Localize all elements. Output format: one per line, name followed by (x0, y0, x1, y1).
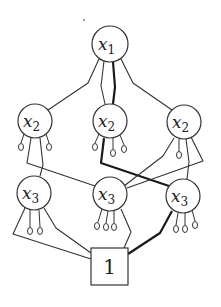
leaf-stub (38, 228, 43, 235)
edge-x3c-one (128, 211, 172, 254)
edge-x1-x2a (48, 59, 99, 110)
node-x2-left: x2 (18, 104, 52, 138)
edge-x3b-one (121, 209, 131, 248)
leaf-stub (183, 226, 188, 233)
edge-x1-x2b-thick (113, 62, 115, 104)
node-x2-right: x2 (167, 105, 201, 139)
edge-x2a-x3a (40, 138, 43, 176)
edge-x1-x2b-thin (101, 61, 105, 104)
decision-diagram: x1 x2 x2 x2 x3 x3 x3 1 (0, 0, 221, 307)
svg-text:1: 1 (103, 255, 116, 279)
edge-x1-x2c (121, 59, 172, 110)
leaf-stub (177, 152, 182, 159)
leaf-stub (174, 226, 179, 233)
leaf-stub (122, 146, 127, 153)
stray-dot (83, 19, 85, 21)
edge-x2c-x3b-2 (127, 137, 203, 188)
node-x3-left: x3 (17, 176, 51, 210)
leaf-stub (28, 228, 33, 235)
terminal-node-1: 1 (91, 248, 128, 285)
node-x2-middle: x2 (93, 104, 127, 138)
leaf-stub (93, 144, 98, 151)
node-x1: x1 (92, 26, 128, 62)
node-x3-right: x3 (166, 179, 200, 213)
edge-x3a-one-outer (13, 208, 91, 259)
leaf-stub (104, 224, 109, 231)
edges-level-1 (48, 59, 172, 110)
leaf-stub (95, 223, 100, 230)
leaf-stub (112, 224, 117, 231)
leaf-stub (47, 144, 52, 151)
leaf-stub (193, 222, 198, 229)
node-x3-middle: x3 (93, 177, 127, 211)
leaf-stub (19, 144, 24, 151)
leaf-stub (111, 150, 116, 157)
edge-x2c-x3c (186, 139, 189, 179)
